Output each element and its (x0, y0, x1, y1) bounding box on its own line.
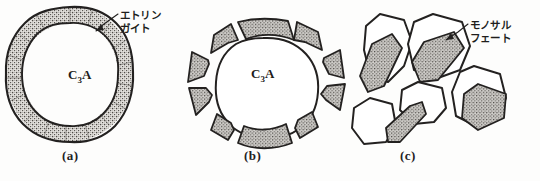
panel-caption-c: (c) (400, 148, 416, 164)
core-label-a: C3A (68, 67, 91, 85)
core-label-a-element: C (68, 67, 77, 82)
panel-caption-a: (a) (62, 148, 79, 164)
ettringite-label-line1: エトリン (120, 9, 161, 22)
monosulfate-label: モノサル フェート (470, 19, 511, 44)
monosulfate-label-line1: モノサル (470, 19, 511, 32)
core-label-a-tail: A (82, 67, 91, 82)
figure-canvas (0, 0, 540, 181)
ettringite-label-line2: ガイト (120, 22, 161, 35)
monosulfate-label-line2: フェート (470, 32, 511, 45)
core-label-b: C3A (251, 66, 274, 84)
panel-caption-b: (b) (244, 148, 261, 164)
ettringite-label: エトリン ガイト (120, 9, 161, 34)
hydration-stages-figure: C3A C3A エトリン ガイト モノサル フェート (a) (b) (c) (0, 0, 540, 181)
core-label-b-tail: A (265, 66, 274, 81)
core-label-b-element: C (251, 66, 260, 81)
